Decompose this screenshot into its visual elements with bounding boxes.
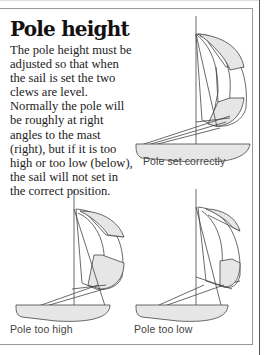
figure-pole-too-low [132, 185, 252, 323]
caption-pole-set-correctly: Pole set correctly [143, 155, 225, 167]
figure-pole-set-correctly [130, 12, 254, 162]
section-title: Pole height [10, 17, 129, 41]
caption-pole-too-high: Pole too high [10, 323, 73, 335]
caption-pole-too-low: Pole too low [134, 323, 192, 335]
figure-pole-too-high [6, 185, 130, 323]
top-rule [0, 0, 259, 1]
column-rule [259, 0, 260, 355]
section-body: The pole height must be adjusted so that… [10, 43, 135, 198]
